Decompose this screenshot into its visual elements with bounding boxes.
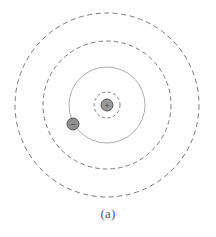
figure-caption: (a) [0, 206, 216, 222]
nucleus-charge-label: + [104, 100, 110, 111]
atom-figure: + − (a) [0, 0, 216, 237]
electron-charge-label: − [70, 119, 76, 130]
atom-diagram: + − [0, 0, 216, 237]
